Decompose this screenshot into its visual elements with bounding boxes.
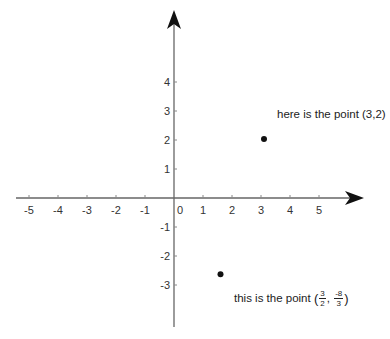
x-tick-label: 4	[287, 204, 293, 216]
fraction-x: 32	[319, 289, 325, 308]
annotation-text: here is the point (3,2)	[277, 108, 386, 120]
y-tick-label: 3	[164, 105, 170, 117]
x-tick-label: -4	[53, 204, 63, 216]
data-point	[261, 136, 267, 142]
x-tick-label: 3	[258, 204, 264, 216]
x-tick-label: -2	[111, 204, 121, 216]
annotation-point-3half-neg8third: this is the point (32, -83)	[234, 289, 349, 308]
y-tick-label: 2	[164, 134, 170, 146]
x-tick-label: -3	[82, 204, 92, 216]
x-tick-label: 5	[316, 204, 322, 216]
open-paren: (	[314, 291, 318, 306]
annotation-prefix: this is the point	[234, 292, 311, 304]
y-tick-label: 4	[164, 76, 170, 88]
x-tick-label: 0	[177, 204, 183, 216]
x-tick-label: 1	[200, 204, 206, 216]
x-tick-label: 2	[229, 204, 235, 216]
fraction-y: -83	[334, 289, 343, 308]
close-paren: )	[344, 291, 348, 306]
y-tick-label: -2	[160, 250, 170, 262]
y-tick-label: 1	[164, 163, 170, 175]
x-tick-label: -1	[140, 204, 150, 216]
annotation-point-3-2: here is the point (3,2)	[277, 108, 386, 120]
data-point	[218, 271, 224, 277]
comma: ,	[327, 292, 330, 304]
y-tick-label: -1	[160, 221, 170, 233]
y-tick-label: -3	[160, 279, 170, 291]
x-tick-label: -5	[24, 204, 34, 216]
